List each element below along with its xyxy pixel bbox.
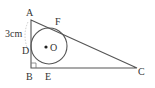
- label-e: E: [45, 71, 51, 82]
- label-o: O: [50, 42, 57, 53]
- label-c: C: [138, 66, 145, 77]
- right-angle-mark: [31, 63, 36, 68]
- triangle-abc: [31, 20, 137, 68]
- label-a: A: [26, 7, 34, 18]
- label-d: D: [22, 45, 29, 56]
- label-b: B: [26, 71, 33, 82]
- label-f: F: [55, 16, 61, 27]
- label-3cm: 3cm: [5, 28, 22, 39]
- incircle: [31, 28, 67, 64]
- geometry-figure: A B C D E F O 3cm: [0, 0, 155, 88]
- center-point-o: [44, 45, 47, 48]
